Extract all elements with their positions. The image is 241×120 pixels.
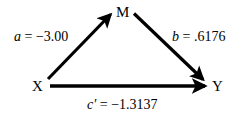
path-label-c-prime: c′ = −1.3137 bbox=[87, 98, 158, 112]
node-label-y: Y bbox=[212, 79, 223, 94]
path-a-symbol: a bbox=[14, 29, 21, 44]
path-b-value: .6176 bbox=[194, 29, 226, 44]
node-label-x: X bbox=[32, 79, 43, 94]
path-label-b: b = .6176 bbox=[172, 30, 225, 44]
path-c-prime-symbol: c′ bbox=[87, 97, 96, 112]
path-a-equals: = bbox=[25, 29, 33, 44]
path-b-symbol: b bbox=[172, 29, 179, 44]
path-c-prime-value: −1.3137 bbox=[111, 97, 157, 112]
arrow-x-to-m bbox=[48, 15, 111, 80]
arrow-m-to-y bbox=[134, 14, 203, 80]
node-label-m: M bbox=[116, 5, 129, 20]
path-label-a: a = −3.00 bbox=[14, 30, 68, 44]
path-a-value: −3.00 bbox=[36, 29, 68, 44]
path-b-equals: = bbox=[183, 29, 191, 44]
mediation-path-diagram: M X Y a = −3.00 b = .6176 c′ = −1.3137 bbox=[0, 0, 241, 120]
path-c-prime-equals: = bbox=[100, 97, 108, 112]
